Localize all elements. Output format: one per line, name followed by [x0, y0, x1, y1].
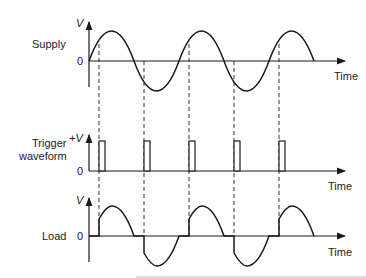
trigger-zero-label: 0 — [77, 165, 83, 177]
supply-time-label: Time — [334, 70, 358, 82]
supply-v-label: V — [76, 17, 85, 29]
supply-label: Supply — [32, 38, 66, 50]
load-zero-label: 0 — [77, 230, 83, 242]
load-label: Load — [42, 230, 66, 242]
load-v-label: V — [76, 194, 85, 206]
trigger-time-label: Time — [328, 180, 352, 192]
trigger-pulse — [144, 141, 150, 171]
load-time-label: Time — [328, 246, 352, 258]
supply-zero-label: 0 — [77, 55, 83, 67]
trigger-alignment-lines — [99, 44, 279, 236]
trigger-label-line1: Trigger — [32, 137, 67, 149]
thyristor-waveform-diagram: Supply V 0 Time Trigger waveform +V 0 Ti… — [0, 0, 366, 278]
trigger-v-label: +V — [69, 132, 84, 144]
trigger-panel: Trigger waveform +V 0 Time — [18, 132, 352, 192]
trigger-pulse — [189, 141, 195, 171]
supply-panel: Supply V 0 Time — [32, 17, 358, 91]
trigger-pulse — [279, 141, 285, 171]
trigger-label-line2: waveform — [18, 150, 67, 162]
load-panel: Load V 0 Time — [42, 194, 352, 266]
trigger-pulse — [234, 141, 240, 171]
trigger-pulse — [99, 141, 105, 171]
